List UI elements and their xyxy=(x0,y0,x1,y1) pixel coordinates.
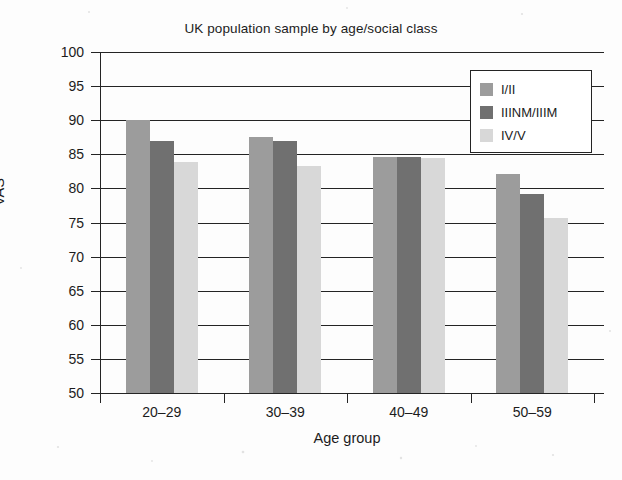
y-axis-tick-mark-right xyxy=(594,257,604,258)
legend-swatch-icon xyxy=(480,83,493,96)
bar-group xyxy=(249,52,321,393)
y-axis-tick-mark-right xyxy=(594,86,604,87)
y-axis-tick-mark xyxy=(91,291,100,292)
y-axis-tick-label: 50 xyxy=(24,385,84,401)
y-axis-tick-mark-right xyxy=(594,120,604,121)
bar-group xyxy=(126,52,198,393)
bar xyxy=(544,218,568,393)
chart-figure: UK population sample by age/social class… xyxy=(0,0,622,480)
legend-item: I/II xyxy=(480,78,591,101)
y-axis-tick-mark-right xyxy=(594,154,604,155)
y-axis-tick-mark-right xyxy=(594,359,604,360)
y-axis-tick-mark xyxy=(91,188,100,189)
y-axis-tick-mark-right xyxy=(594,223,604,224)
x-axis-tick-mark xyxy=(347,393,348,403)
y-axis-tick-mark xyxy=(91,257,100,258)
legend-item: IV/V xyxy=(480,124,591,147)
y-axis-tick-label: 95 xyxy=(24,78,84,94)
y-axis-title: VAS xyxy=(0,178,7,206)
legend-swatch-icon xyxy=(480,106,493,119)
y-axis-tick-mark xyxy=(91,120,100,121)
y-axis-tick-mark xyxy=(91,86,100,87)
y-axis-tick-label: 80 xyxy=(24,180,84,196)
legend-label: IV/V xyxy=(501,128,526,143)
x-axis-tick-label: 40–49 xyxy=(349,404,469,420)
y-axis-tick-label: 100 xyxy=(24,44,84,60)
legend-label: I/II xyxy=(501,82,515,97)
y-axis-tick-label: 85 xyxy=(24,146,84,162)
bar xyxy=(297,166,321,393)
y-axis-tick-label: 75 xyxy=(24,215,84,231)
y-axis-tick-mark-right xyxy=(594,52,604,53)
y-axis-tick-mark xyxy=(91,154,100,155)
y-axis-tick-mark xyxy=(91,223,100,224)
bar xyxy=(273,141,297,393)
chart-legend: I/IIIIINM/IIIMIV/V xyxy=(470,70,592,153)
x-axis-tick-label: 30–39 xyxy=(225,404,345,420)
bar xyxy=(496,174,520,393)
legend-label: IIINM/IIIM xyxy=(501,105,557,120)
bar xyxy=(520,194,544,393)
y-axis-tick-label: 55 xyxy=(24,351,84,367)
y-axis-tick-label: 65 xyxy=(24,283,84,299)
bar xyxy=(174,162,198,393)
x-axis-tick-mark xyxy=(594,393,595,403)
x-axis-tick-label: 20–29 xyxy=(102,404,222,420)
x-axis-tick-label: 50–59 xyxy=(472,404,592,420)
y-axis-tick-mark xyxy=(91,325,100,326)
y-axis-tick-mark xyxy=(91,52,100,53)
y-axis-tick-mark-right xyxy=(594,393,604,394)
y-axis-tick-mark-right xyxy=(594,291,604,292)
x-axis-tick-mark xyxy=(471,393,472,403)
x-axis-title: Age group xyxy=(100,430,594,446)
x-axis-tick-mark xyxy=(100,393,101,403)
y-axis-tick-label: 60 xyxy=(24,317,84,333)
bar xyxy=(421,158,445,393)
y-axis-tick-labels: 50556065707580859095100 xyxy=(22,52,84,393)
x-axis-tick-mark xyxy=(224,393,225,403)
bar-group xyxy=(373,52,445,393)
bar xyxy=(373,157,397,393)
bar xyxy=(397,157,421,393)
y-axis-tick-mark xyxy=(91,359,100,360)
chart-title: UK population sample by age/social class xyxy=(0,21,622,36)
y-axis-spine xyxy=(100,52,101,393)
y-axis-tick-label: 90 xyxy=(24,112,84,128)
y-axis-tick-label: 70 xyxy=(24,249,84,265)
bar xyxy=(126,120,150,393)
y-axis-tick-mark xyxy=(91,393,100,394)
bar xyxy=(249,137,273,393)
legend-swatch-icon xyxy=(480,129,493,142)
legend-item: IIINM/IIIM xyxy=(480,101,591,124)
y-axis-tick-mark-right xyxy=(594,325,604,326)
bar xyxy=(150,141,174,393)
y-axis-tick-mark-right xyxy=(594,188,604,189)
